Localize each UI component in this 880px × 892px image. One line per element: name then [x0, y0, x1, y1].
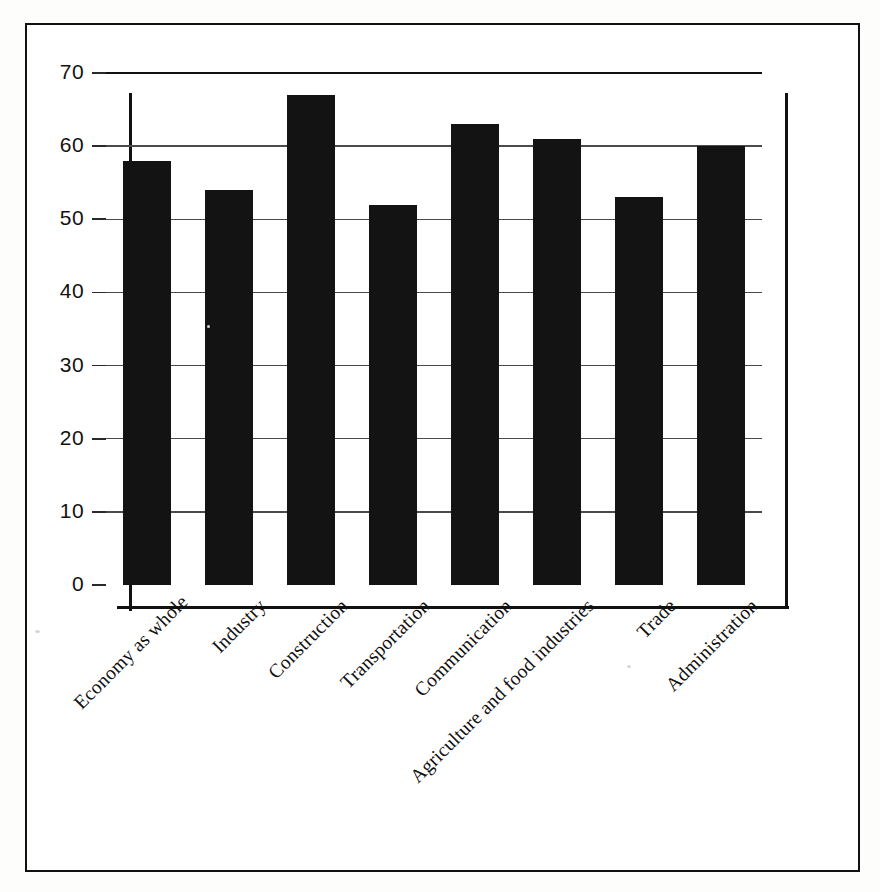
- y-tick-label-50: 50: [27, 206, 84, 230]
- bar: [451, 124, 499, 585]
- y-tick-40: [92, 292, 106, 294]
- y-tick-0: [92, 584, 106, 586]
- y-tick-10: [92, 511, 106, 513]
- y-tick-label-10: 10: [27, 499, 84, 523]
- page-background: 010203040506070 Economy as wholeIndustry…: [0, 0, 880, 892]
- y-tick-60: [92, 145, 106, 147]
- y-tick-20: [92, 438, 106, 440]
- bar: [123, 161, 171, 585]
- scan-speck: [627, 665, 631, 668]
- y-tick-label-60: 60: [27, 133, 84, 157]
- y-tick-50: [92, 218, 106, 220]
- figure-frame: 010203040506070 Economy as wholeIndustry…: [25, 23, 860, 872]
- bar: [615, 197, 663, 585]
- y-tick-label-40: 40: [27, 279, 84, 303]
- y-tick-label-0: 0: [27, 572, 84, 596]
- x-axis-label: Industry: [94, 595, 271, 772]
- y-tick-30: [92, 365, 106, 367]
- y-tick-label-20: 20: [27, 426, 84, 450]
- scan-speck: [207, 325, 210, 328]
- plot-area: [106, 73, 762, 585]
- bar: [205, 190, 253, 585]
- y-tick-70: [92, 72, 106, 74]
- bar: [287, 95, 335, 585]
- bar: [369, 205, 417, 585]
- plot-right-edge: [785, 93, 788, 609]
- bar: [697, 146, 745, 585]
- y-tick-label-30: 30: [27, 353, 84, 377]
- x-axis-label: Transportation: [142, 595, 435, 888]
- y-tick-label-70: 70: [27, 60, 84, 84]
- x-axis-line: [117, 606, 789, 609]
- bar: [533, 139, 581, 585]
- scan-speck: [35, 630, 40, 633]
